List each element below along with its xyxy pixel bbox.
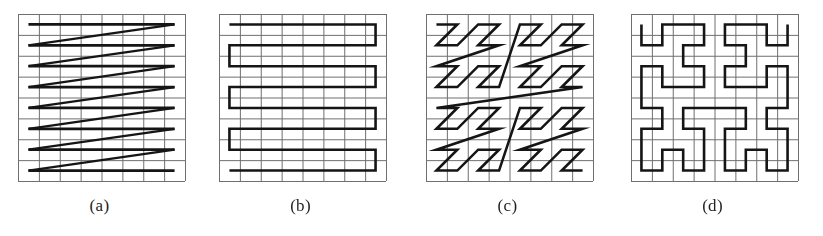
caption-d: (d) [610, 196, 815, 216]
panel-c: (c) [405, 0, 610, 236]
hilbert-curve-diagram [610, 0, 815, 196]
scan-order-figure: (a) (b) (c) (d) [0, 0, 823, 236]
morton-z-order-curve-diagram [405, 0, 610, 196]
panel-a: (a) [0, 0, 202, 236]
caption-a: (a) [0, 196, 202, 216]
boustrophedon-scan-diagram [198, 0, 403, 196]
panel-b: (b) [198, 0, 403, 236]
caption-c: (c) [405, 196, 610, 216]
raster-scan-diagram [0, 0, 202, 196]
caption-b: (b) [198, 196, 403, 216]
panel-d: (d) [610, 0, 815, 236]
